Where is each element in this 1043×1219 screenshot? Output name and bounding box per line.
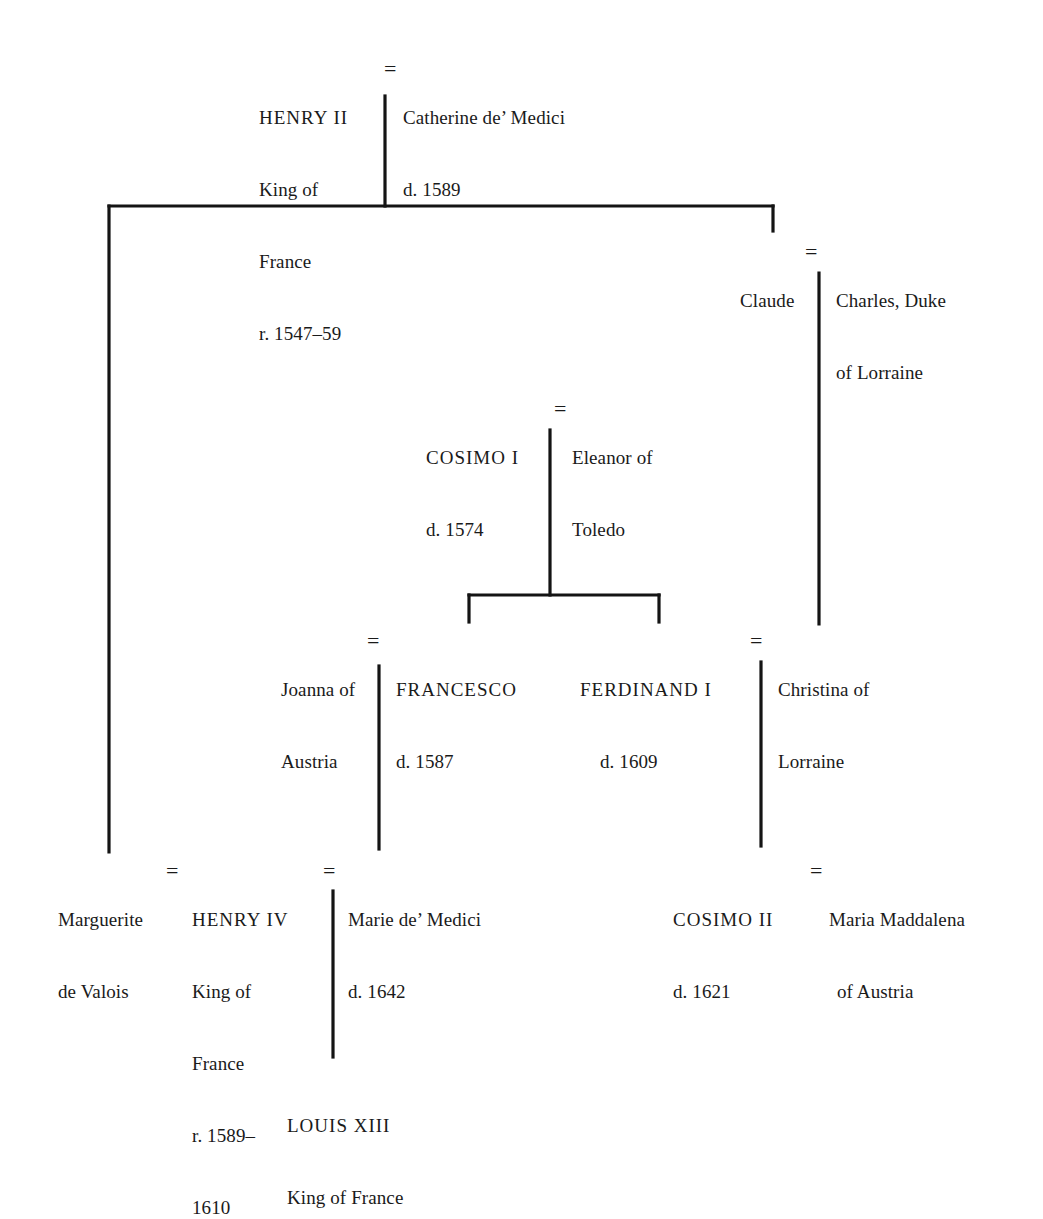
person-cosimo-i: COSIMO I d. 1574 [426, 398, 519, 590]
person-detail: r. 1589– [192, 1124, 289, 1148]
person-name: LOUIS XIII [287, 1114, 403, 1138]
person-name: HENRY II [259, 106, 348, 130]
person-claude: Claude [740, 241, 794, 361]
person-name: Eleanor of [572, 446, 653, 470]
person-detail: d. 1589 [403, 178, 565, 202]
person-name: Joanna of [281, 678, 355, 702]
person-marguerite: Marguerite de Valois [58, 860, 143, 1052]
person-maria-maddalena: Maria Maddalena of Austria [829, 860, 965, 1052]
person-detail: de Valois [58, 980, 143, 1004]
person-name: Maria Maddalena [829, 908, 965, 932]
person-name: COSIMO I [426, 446, 519, 470]
person-detail: Lorraine [778, 750, 869, 774]
person-detail: France [259, 250, 348, 274]
person-detail: r. 1547–59 [259, 322, 348, 346]
family-tree-diagram: HENRY II King of France r. 1547–59 = Cat… [0, 0, 1043, 1219]
person-detail: France [192, 1052, 289, 1076]
person-detail: d. 1587 [396, 750, 517, 774]
marriage-symbol: = [750, 629, 762, 653]
person-detail: d. 1621 [673, 980, 773, 1004]
person-detail: d. 1642 [348, 980, 481, 1004]
marriage-symbol: = [323, 859, 335, 883]
person-detail: d. 1609 [580, 750, 712, 774]
person-henry-ii: HENRY II King of France r. 1547–59 [259, 58, 348, 394]
person-louis-xiii: LOUIS XIII King of France r. 1610–43 [287, 1066, 403, 1219]
person-francesco: FRANCESCO d. 1587 [396, 630, 517, 822]
person-detail: King of [259, 178, 348, 202]
person-name: FRANCESCO [396, 678, 517, 702]
person-christina: Christina of Lorraine [778, 630, 869, 822]
marriage-symbol: = [810, 859, 822, 883]
person-detail: of Lorraine [836, 361, 946, 385]
person-catherine: Catherine de’ Medici d. 1589 [403, 58, 565, 250]
marriage-symbol: = [554, 397, 566, 421]
person-charles: Charles, Duke of Lorraine [836, 241, 946, 433]
marriage-symbol: = [384, 57, 396, 81]
person-name: FERDINAND I [580, 678, 712, 702]
person-henry-iv: HENRY IV King of France r. 1589– 1610 [192, 860, 289, 1219]
person-detail: of Austria [829, 980, 965, 1004]
person-eleanor: Eleanor of Toledo [572, 398, 653, 590]
person-marie: Marie de’ Medici d. 1642 [348, 860, 481, 1052]
person-name: Catherine de’ Medici [403, 106, 565, 130]
person-ferdinand-i: FERDINAND I d. 1609 [580, 630, 712, 822]
person-detail: King of [192, 980, 289, 1004]
person-name: Marie de’ Medici [348, 908, 481, 932]
person-name: Charles, Duke [836, 289, 946, 313]
person-name: Marguerite [58, 908, 143, 932]
person-detail: Toledo [572, 518, 653, 542]
person-cosimo-ii: COSIMO II d. 1621 [673, 860, 773, 1052]
person-detail: Austria [281, 750, 355, 774]
marriage-symbol: = [805, 240, 817, 264]
marriage-symbol: = [166, 859, 178, 883]
person-detail: 1610 [192, 1196, 289, 1219]
person-name: Christina of [778, 678, 869, 702]
marriage-symbol: = [367, 629, 379, 653]
person-name: Claude [740, 289, 794, 313]
person-joanna: Joanna of Austria [281, 630, 355, 822]
person-detail: d. 1574 [426, 518, 519, 542]
person-name: HENRY IV [192, 908, 289, 932]
person-detail: King of France [287, 1186, 403, 1210]
person-name: COSIMO II [673, 908, 773, 932]
